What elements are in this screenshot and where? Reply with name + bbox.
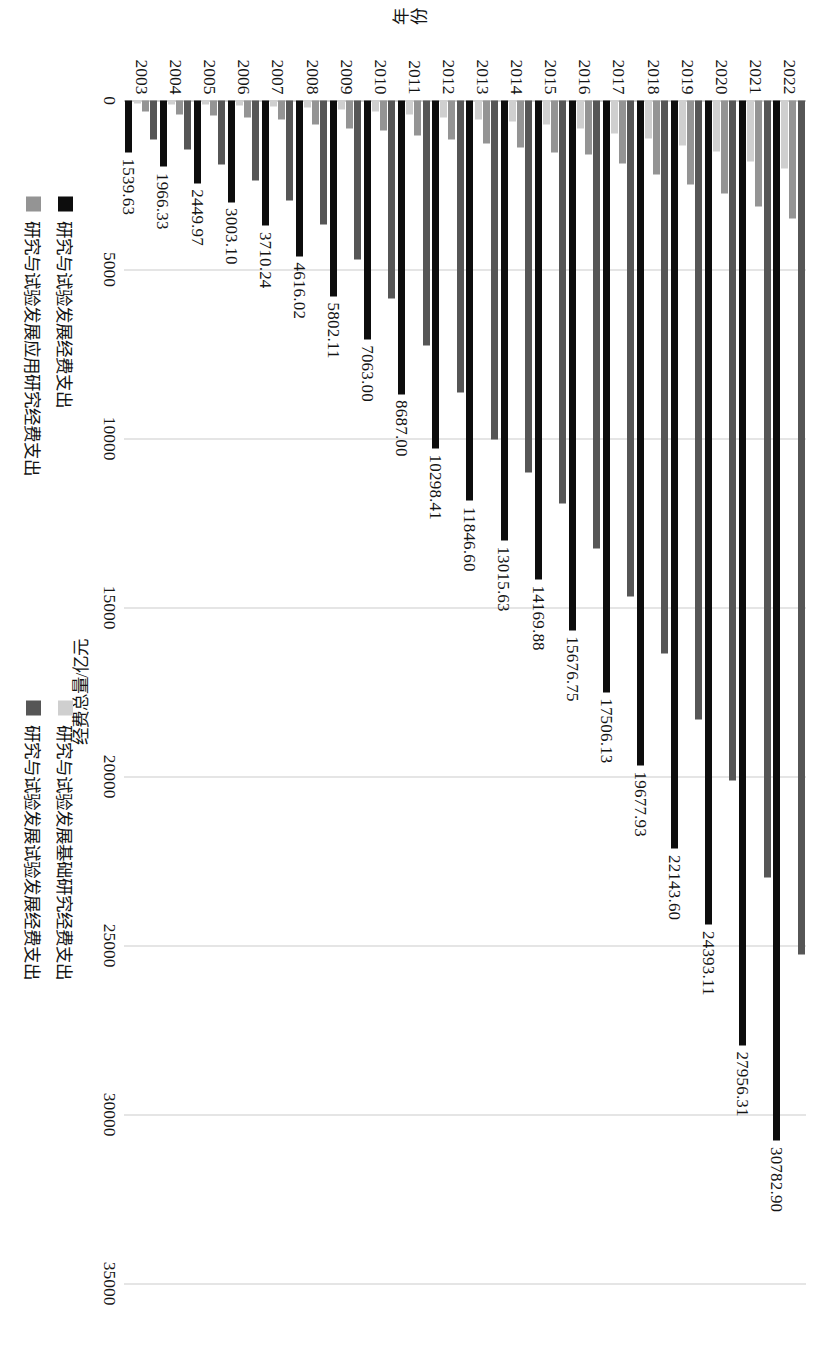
bar: [286, 100, 293, 200]
bar: [551, 100, 558, 152]
bar: [228, 100, 235, 202]
bar: [509, 100, 516, 121]
bar: [611, 100, 618, 133]
data-label: 27956.31: [732, 1051, 752, 1116]
bar: [194, 100, 201, 183]
data-label: 11846.60: [459, 506, 479, 571]
category-axis-tick-label: 2005: [199, 34, 220, 94]
legend-item[interactable]: 研究与试验发展基础研究经费支出: [53, 700, 78, 979]
bar: [721, 100, 728, 193]
bar: [679, 100, 686, 145]
legend-label: 研究与试验发展基础研究经费支出: [53, 724, 78, 979]
legend-item[interactable]: 研究与试验发展经费支出: [53, 196, 78, 475]
bar: [627, 100, 634, 596]
chart-page: 1539.631966.332449.973003.103710.244616.…: [0, 0, 820, 1351]
category-axis-tick-label: 2022: [778, 34, 799, 94]
data-label: 3710.24: [255, 231, 275, 288]
bar: [278, 100, 285, 119]
bar: [296, 100, 303, 256]
bar: [645, 100, 652, 138]
legend-item[interactable]: 研究与试验发展应用研究经费支出: [21, 196, 46, 475]
bar: [202, 100, 209, 104]
bar-chart-figure: 1539.631966.332449.973003.103710.244616.…: [0, 0, 820, 1351]
bar: [125, 100, 132, 152]
bar: [739, 100, 746, 1045]
bar: [798, 100, 805, 954]
data-label: 19677.93: [630, 771, 650, 836]
bar: [380, 100, 387, 130]
bar-group: [397, 100, 431, 1283]
bar: [364, 100, 371, 339]
bar: [372, 100, 379, 111]
category-axis-tick-label: 2019: [676, 34, 697, 94]
bar: [252, 100, 259, 180]
bar: [619, 100, 626, 163]
bar: [406, 100, 413, 114]
bar: [176, 100, 183, 114]
category-axis-tick-label: 2012: [437, 34, 458, 94]
bar: [569, 100, 576, 630]
bar-group: [601, 100, 635, 1283]
rotated-figure-container: 1539.631966.332449.973003.103710.244616.…: [0, 0, 820, 1351]
bar: [491, 100, 498, 439]
legend-label: 研究与试验发展经费支出: [53, 220, 78, 407]
category-axis-tick-label: 2021: [744, 34, 765, 94]
value-axis-tick-label: 5000: [99, 252, 120, 287]
bar: [449, 100, 456, 139]
bar: [543, 100, 550, 124]
bar-group: [636, 100, 670, 1283]
data-label: 24393.11: [698, 930, 718, 995]
data-label: 1539.63: [118, 158, 138, 215]
bar-group: [465, 100, 499, 1283]
legend-group-left: 研究与试验发展经费支出研究与试验发展应用研究经费支出: [21, 196, 78, 475]
bar: [160, 100, 167, 166]
category-axis-tick-label: 2020: [710, 34, 731, 94]
category-axis-tick-label: 2003: [131, 34, 152, 94]
bar-group: [670, 100, 704, 1283]
bar-group: [124, 100, 158, 1283]
bar: [764, 100, 771, 877]
bar: [218, 100, 225, 164]
bar: [593, 100, 600, 548]
bar: [603, 100, 610, 692]
bar-group: [431, 100, 465, 1283]
bar: [661, 100, 668, 653]
bar: [790, 100, 797, 218]
value-axis-tick-label: 0: [99, 96, 120, 105]
data-label: 1966.33: [153, 172, 173, 229]
bar: [483, 100, 490, 143]
bar: [142, 100, 149, 111]
bar: [354, 100, 361, 259]
bar: [262, 100, 269, 225]
category-axis-tick-label: 2006: [233, 34, 254, 94]
bar: [695, 100, 702, 719]
bar: [781, 100, 788, 168]
data-label: 13015.63: [494, 546, 514, 611]
bar: [168, 100, 175, 104]
plot-area: 1539.631966.332449.973003.103710.244616.…: [124, 100, 806, 1283]
data-label: 22143.60: [664, 854, 684, 919]
legend-group-right: 研究与试验发展基础研究经费支出研究与试验发展试验发展经费支出: [21, 700, 78, 979]
bar: [525, 100, 532, 472]
bar: [134, 100, 141, 103]
bar-group: [158, 100, 192, 1283]
bar: [501, 100, 508, 540]
category-axis-tick-label: 2013: [472, 34, 493, 94]
bar: [466, 100, 473, 500]
category-axis-tick-label: 2018: [642, 34, 663, 94]
bar: [773, 100, 780, 1140]
data-label: 17506.13: [596, 698, 616, 763]
bar: [338, 100, 345, 109]
bar: [398, 100, 405, 394]
data-label: 15676.75: [562, 636, 582, 701]
bar-group: [329, 100, 363, 1283]
bar: [713, 100, 720, 151]
bar: [330, 100, 337, 296]
bar: [475, 100, 482, 119]
legend-item[interactable]: 研究与试验发展试验发展经费支出: [21, 700, 46, 979]
category-axis-tick-label: 2009: [335, 34, 356, 94]
bar: [432, 100, 439, 448]
data-label: 14169.88: [528, 585, 548, 650]
data-label: 10298.41: [425, 454, 445, 519]
bar: [705, 100, 712, 924]
